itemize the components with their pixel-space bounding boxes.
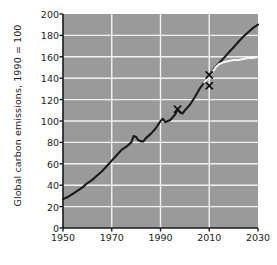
chart-figure: Global carbon emissions, 1990 = 100 0204… <box>0 0 277 265</box>
plot-canvas <box>0 0 277 265</box>
